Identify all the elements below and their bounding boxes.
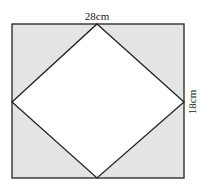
top-length-label: 28cm: [85, 10, 110, 22]
diagram: 28cm 18cm: [0, 0, 204, 187]
right-length-label: 18cm: [186, 89, 198, 114]
